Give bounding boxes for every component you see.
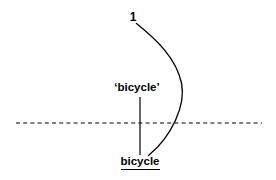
diagram-canvas: 1 ‘bicycle’ bicycle [0, 0, 276, 180]
top-node-label: 1 [0, 11, 271, 23]
orthographic-form-text: bicycle [121, 156, 160, 170]
phonological-form-label: ‘bicycle’ [0, 82, 275, 94]
orthographic-form-label: bicycle [2, 156, 276, 170]
